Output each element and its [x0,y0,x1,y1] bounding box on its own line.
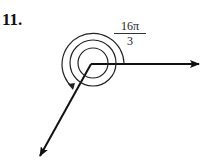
rotation-arc-outer [62,33,124,88]
rotation-arrowhead-icon [68,83,75,90]
angle-diagram [0,0,203,162]
